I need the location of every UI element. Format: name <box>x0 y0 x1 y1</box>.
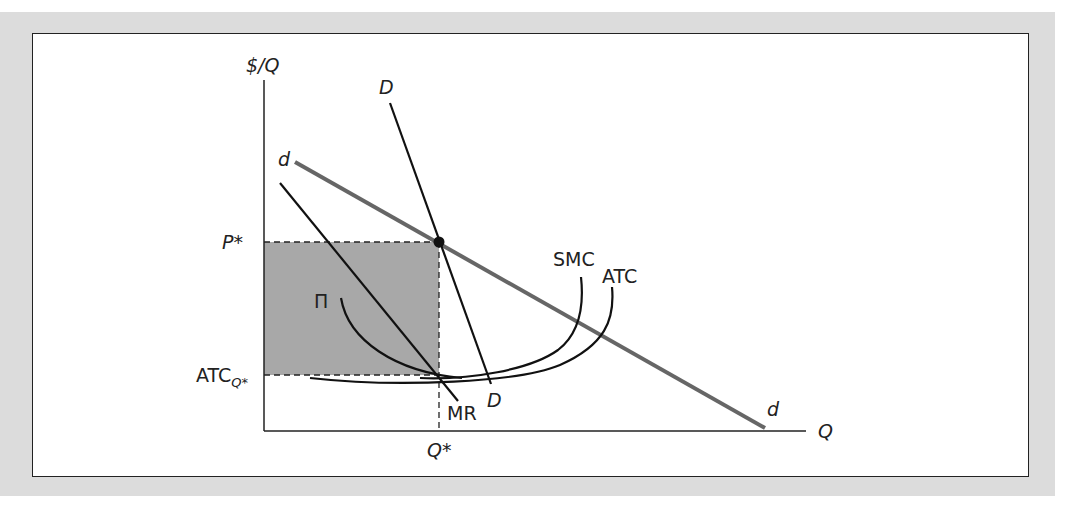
firm-demand-label-top: d <box>278 148 291 170</box>
profit-area <box>264 242 439 375</box>
mr-label: MR <box>447 402 477 424</box>
equilibrium-point <box>434 237 445 248</box>
q-star-label: Q* <box>427 439 451 461</box>
x-axis-label: Q <box>818 420 833 442</box>
profit-label: Π <box>314 290 328 312</box>
atc-main: ATC <box>196 364 231 386</box>
market-demand-label-bottom: D <box>487 389 502 411</box>
atc-subscript: Q* <box>231 375 248 390</box>
firm-demand-label-bottom: d <box>767 398 780 420</box>
y-axis-label: $/Q <box>246 54 279 76</box>
p-star-label: P* <box>222 231 243 253</box>
smc-label: SMC <box>553 248 595 270</box>
market-demand-label-top: D <box>379 76 394 98</box>
economics-diagram: $/Q Q P* ATCQ* Q* d d D D MR SMC ATC Π <box>0 0 1072 516</box>
atc-label: ATC <box>602 265 637 287</box>
atc-q-star-label: ATCQ* <box>196 364 249 390</box>
smc-curve <box>420 277 582 378</box>
